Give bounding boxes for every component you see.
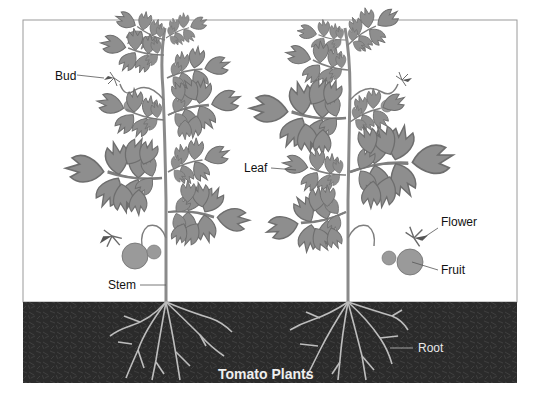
right-fruit-small (382, 251, 396, 265)
label-root: Root (418, 342, 443, 354)
left-fruit-large (122, 243, 148, 269)
diagram-title: Tomato Plants (218, 367, 313, 381)
tomato-plants-diagram: Bud Leaf Stem Flower Fruit Root Tomato P… (0, 0, 536, 402)
label-leaf: Leaf (244, 162, 267, 174)
label-stem: Stem (108, 279, 136, 291)
label-bud: Bud (55, 70, 76, 82)
label-fruit: Fruit (441, 264, 465, 276)
left-fruit-small (147, 245, 161, 259)
right-fruit-large (397, 249, 423, 275)
label-flower: Flower (441, 216, 477, 228)
diagram-canvas (0, 0, 536, 402)
